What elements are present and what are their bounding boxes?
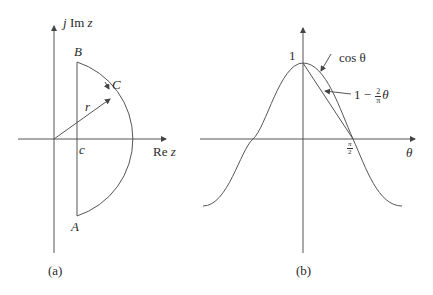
label-re-z: z — [171, 144, 176, 159]
panel-a-caption: (a) — [48, 264, 62, 277]
linear-label-prefix: 1 − — [354, 87, 371, 102]
intercept-c-label: c — [79, 143, 85, 156]
linear-label-fraction: 2 π — [375, 88, 381, 105]
cos-curve-label: cos θ — [339, 51, 366, 64]
radius-vector — [54, 99, 110, 139]
panel-b-caption: (b) — [296, 264, 311, 277]
fraction-denominator: π — [375, 97, 381, 105]
point-b-label: B — [74, 45, 82, 58]
linear-label-theta: θ — [382, 87, 388, 102]
radius-label: r — [85, 100, 90, 113]
tick-denominator: 2 — [347, 149, 353, 156]
linear-bound-line — [303, 63, 353, 139]
point-a-label: A — [71, 220, 79, 233]
point-c-label: C — [112, 78, 121, 91]
label-re: Re — [153, 144, 167, 159]
label-im: Im — [70, 15, 84, 30]
arc-direction-arrow — [105, 82, 109, 89]
figure-canvas — [0, 0, 433, 295]
linear-curve-label: 1 − 2 π θ — [354, 88, 389, 105]
linear-label-pointer — [325, 91, 351, 94]
cos-label-pointer — [321, 54, 331, 71]
imaginary-axis-label: j Im z — [63, 16, 93, 29]
tick-fraction: π 2 — [347, 141, 353, 156]
panel-a-diagram — [18, 26, 166, 253]
label-z: z — [88, 15, 93, 30]
label-j: j — [63, 15, 67, 30]
theta-axis-label: θ — [406, 146, 412, 159]
peak-value-label: 1 — [289, 49, 296, 62]
pi-over-2-tick-label: π 2 — [346, 140, 354, 156]
real-axis-label: Re z — [153, 145, 176, 158]
panel-b-plot — [200, 28, 415, 253]
